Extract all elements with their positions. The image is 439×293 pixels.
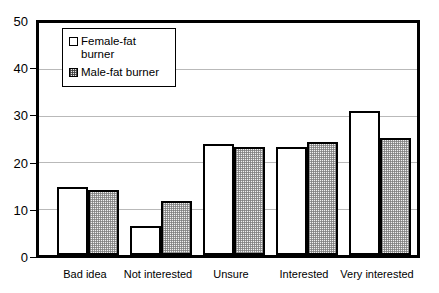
- x-axis-label-not-interested: Not interested: [124, 268, 192, 280]
- bar-male-interested: [307, 142, 338, 255]
- y-tick-label: 10: [0, 204, 28, 217]
- y-tick-label: 30: [0, 109, 28, 122]
- legend-label-female: Female-fatburner: [81, 35, 136, 60]
- bar-male-very-interested: [380, 138, 411, 255]
- bar-female-not-interested: [130, 226, 161, 255]
- legend-swatch-female-icon: [69, 37, 78, 46]
- bar-male-unsure: [234, 147, 265, 255]
- bar-male-bad-idea: [88, 190, 119, 255]
- bar-female-unsure: [203, 144, 234, 255]
- legend: Female-fatburner Male-fat burner: [62, 28, 176, 87]
- x-axis-label-bad-idea: Bad idea: [63, 268, 106, 280]
- x-axis-label-very-interested: Very interested: [340, 268, 413, 280]
- legend-item-female: Female-fatburner: [69, 35, 170, 60]
- y-axis: 50 40 30 20 10 0: [0, 0, 28, 293]
- bar-female-interested: [276, 147, 307, 255]
- x-axis-label-interested: Interested: [280, 268, 329, 280]
- bar-female-very-interested: [349, 111, 380, 255]
- y-tick-label: 40: [0, 62, 28, 75]
- bar-female-bad-idea: [57, 187, 88, 255]
- legend-swatch-male-icon: [69, 68, 78, 77]
- legend-label-female-line1: Female-fat: [81, 35, 136, 47]
- y-tick-label: 50: [0, 15, 28, 28]
- y-tick-label: 0: [0, 251, 28, 264]
- bar-chart: 50 40 30 20 10 0: [0, 0, 439, 293]
- legend-label-male: Male-fat burner: [81, 66, 159, 79]
- legend-item-male: Male-fat burner: [69, 66, 170, 79]
- legend-label-female-line2: burner: [81, 48, 114, 60]
- bar-male-not-interested: [161, 201, 192, 255]
- x-axis-label-unsure: Unsure: [213, 268, 248, 280]
- y-tick-label: 20: [0, 157, 28, 170]
